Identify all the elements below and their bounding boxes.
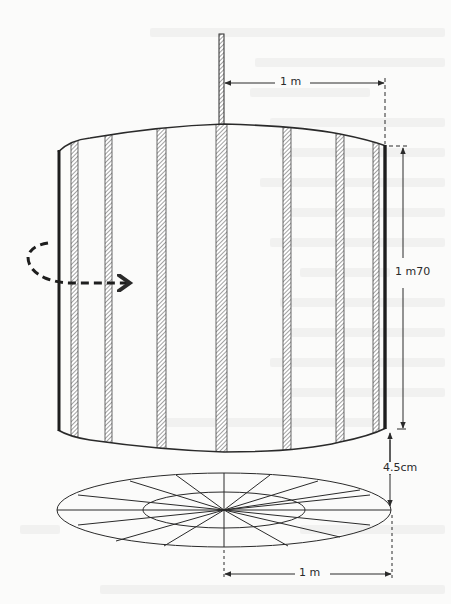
label-top-radius: 1 m [278, 76, 303, 88]
dimension-top-radius [225, 78, 385, 144]
drum-diagram [0, 0, 451, 604]
drum-body [58, 120, 386, 460]
label-gap: 4.5cm [381, 462, 419, 474]
drum-slats [71, 120, 379, 460]
document-page: 1 m 1 m70 4.5cm 1 m [0, 0, 451, 604]
slat [105, 120, 112, 460]
slat [157, 120, 166, 460]
slat [373, 120, 379, 460]
label-height: 1 m70 [393, 266, 432, 278]
central-pole [219, 34, 224, 126]
slat [336, 120, 344, 460]
slat [71, 120, 78, 460]
dimension-height [389, 146, 410, 429]
label-bottom-radius: 1 m [297, 567, 322, 579]
slat [283, 120, 291, 460]
segmented-disk [57, 473, 391, 547]
slat [216, 120, 227, 460]
